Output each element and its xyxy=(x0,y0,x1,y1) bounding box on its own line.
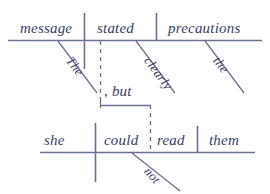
word-second-object-them: them xyxy=(209,133,239,148)
word-second-verb-read: read xyxy=(157,133,185,148)
word-object-precautions: precautions xyxy=(168,21,240,36)
word-second-verb-could: could xyxy=(104,133,138,148)
word-conjunction-but: , but xyxy=(104,84,132,99)
sentence-diagram: message stated precautions The clearly t… xyxy=(0,0,270,194)
word-second-subject-she: she xyxy=(44,133,65,148)
word-verb-stated: stated xyxy=(97,21,134,36)
word-subject-message: message xyxy=(20,21,72,36)
